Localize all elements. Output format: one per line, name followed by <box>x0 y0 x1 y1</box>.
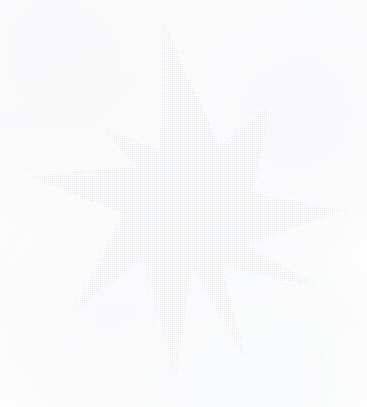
halftone-star-svg <box>0 0 367 407</box>
star-shape-group <box>25 14 345 382</box>
star-polygon-soft-edge <box>25 14 345 382</box>
star-artwork-layer <box>0 0 367 407</box>
image-canvas <box>0 0 367 407</box>
